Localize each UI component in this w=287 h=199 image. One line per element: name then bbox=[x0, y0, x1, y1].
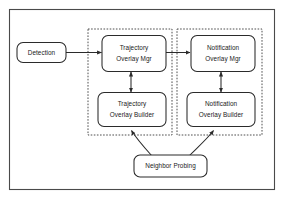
node-notification-overlay-builder[interactable]: Notification Overlay Builder bbox=[187, 93, 255, 127]
node-trajectory-overlay-mgr[interactable]: Trajectory Overlay Mgr bbox=[102, 36, 166, 72]
node-trajectory-overlay-builder-label-line2: Overlay Builder bbox=[110, 111, 155, 119]
node-notification-overlay-mgr-box bbox=[191, 36, 255, 72]
diagram-svg: Detection Trajectory Overlay Mgr Notific… bbox=[0, 0, 287, 199]
node-detection-label-line1: Detection bbox=[28, 49, 56, 56]
node-trajectory-overlay-mgr-label-line1: Trajectory bbox=[120, 44, 149, 52]
node-detection[interactable]: Detection bbox=[17, 43, 66, 63]
node-neighbor-probing[interactable]: Neighbor Probing bbox=[134, 155, 207, 177]
node-trajectory-overlay-builder[interactable]: Trajectory Overlay Builder bbox=[98, 93, 166, 127]
node-notification-overlay-builder-box bbox=[187, 93, 255, 127]
node-trajectory-overlay-builder-label-line1: Trajectory bbox=[118, 100, 147, 108]
diagram-canvas: Detection Trajectory Overlay Mgr Notific… bbox=[0, 0, 287, 199]
node-notification-overlay-builder-label-line2: Overlay Builder bbox=[199, 111, 244, 119]
node-trajectory-overlay-builder-box bbox=[98, 93, 166, 127]
node-notification-overlay-mgr[interactable]: Notification Overlay Mgr bbox=[191, 36, 255, 72]
node-neighbor-probing-label-line1: Neighbor Probing bbox=[145, 162, 196, 170]
node-trajectory-overlay-mgr-label-line2: Overlay Mgr bbox=[116, 55, 152, 63]
node-notification-overlay-mgr-label-line2: Overlay Mgr bbox=[205, 55, 241, 63]
node-notification-overlay-builder-label-line1: Notification bbox=[205, 100, 238, 107]
edge-neighbor-probing-to-trajectory-builder bbox=[132, 131, 153, 157]
edge-neighbor-probing-to-notification-builder bbox=[189, 131, 214, 157]
node-trajectory-overlay-mgr-box bbox=[102, 36, 166, 72]
node-notification-overlay-mgr-label-line1: Notification bbox=[207, 44, 240, 51]
